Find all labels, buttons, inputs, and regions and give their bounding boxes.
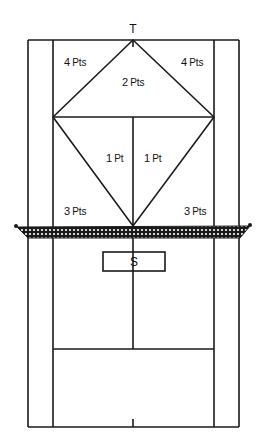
zone-label-top-left: 4Pts bbox=[64, 56, 87, 68]
tennis-court-diagram: S T 4Pts 4Pts 2Pts 1Pt 1Pt 3Pts 3Pts bbox=[0, 0, 265, 444]
net-post-right bbox=[248, 223, 252, 227]
net-mesh bbox=[17, 226, 250, 238]
target-label: T bbox=[129, 22, 137, 36]
zone-label-lower-right: 3Pts bbox=[184, 205, 207, 217]
server-marker: S bbox=[103, 252, 165, 271]
zone-label-top-right: 4Pts bbox=[181, 56, 204, 68]
zone-label-inner-left: 1Pt bbox=[106, 152, 124, 164]
zone-label-inner-right: 1Pt bbox=[144, 152, 162, 164]
net-post-left bbox=[14, 224, 18, 228]
zone-label-diamond: 2Pts bbox=[122, 76, 145, 88]
server-label: S bbox=[130, 255, 138, 269]
zone-label-lower-left: 3Pts bbox=[64, 205, 87, 217]
